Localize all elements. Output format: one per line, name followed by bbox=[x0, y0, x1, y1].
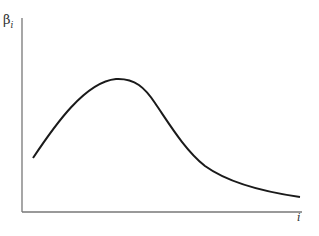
chart bbox=[0, 0, 319, 236]
beta-curve bbox=[33, 79, 300, 197]
x-axis-label: i bbox=[297, 211, 301, 224]
y-axis-label: βi bbox=[3, 12, 13, 30]
